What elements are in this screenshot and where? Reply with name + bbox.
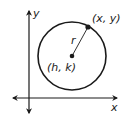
center-label: (h, k) — [47, 61, 76, 74]
center-point — [70, 54, 75, 59]
x-axis-label: x — [110, 101, 118, 114]
radius-label: r — [71, 34, 77, 47]
circle-diagram: y x (x, y) r (h, k) — [0, 0, 124, 124]
point-label: (x, y) — [92, 12, 121, 25]
circle-point — [85, 24, 90, 29]
diagram-canvas: y x (x, y) r (h, k) — [0, 0, 124, 124]
y-axis-label: y — [32, 7, 40, 20]
